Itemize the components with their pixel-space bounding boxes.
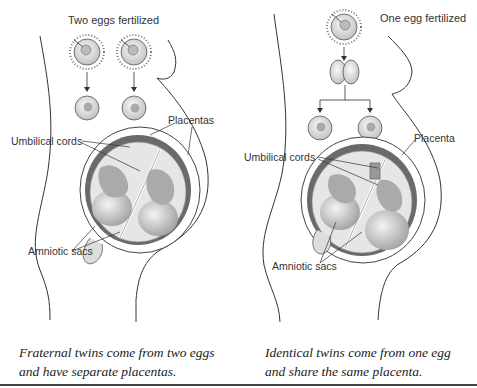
twins-diagram: Two eggs fertilized Placentas Umbilical … bbox=[0, 0, 477, 388]
left-uterus bbox=[80, 127, 200, 264]
right-uterus bbox=[301, 137, 425, 263]
right-caption-line1: Identical twins come from one egg bbox=[265, 343, 451, 362]
left-title: Two eggs fertilized bbox=[68, 15, 159, 26]
label-amniotic-sacs-right: Amniotic sacs bbox=[272, 261, 337, 272]
label-placenta: Placenta bbox=[414, 133, 455, 144]
bottom-rule bbox=[0, 384, 477, 386]
left-caption-line2: and have separate placentas. bbox=[19, 362, 215, 381]
illustration bbox=[0, 0, 477, 388]
left-caption: Fraternal twins come from two eggs and h… bbox=[19, 343, 215, 381]
right-caption-line2: and share the same placenta. bbox=[265, 362, 451, 381]
label-amniotic-sacs-left: Amniotic sacs bbox=[28, 246, 93, 257]
right-caption: Identical twins come from one egg and sh… bbox=[265, 343, 451, 381]
left-fertilized-eggs bbox=[70, 35, 151, 120]
left-caption-line1: Fraternal twins come from two eggs bbox=[19, 343, 215, 362]
right-title: One egg fertilized bbox=[380, 13, 466, 24]
label-umbilical-cords-left: Umbilical cords bbox=[11, 136, 82, 147]
label-placentas: Placentas bbox=[168, 115, 214, 126]
label-umbilical-cords-right: Umbilical cords bbox=[244, 152, 315, 163]
right-fertilized-egg bbox=[308, 10, 382, 140]
